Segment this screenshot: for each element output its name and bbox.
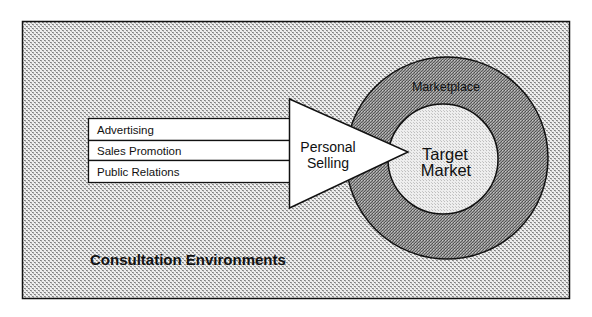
consultation-environments-label: Consultation Environments [90,251,286,268]
arrow-label-line-1: Personal [300,139,355,155]
arrow-label-line-2: Selling [307,155,349,171]
consultation-diagram: Advertising Sales Promotion Public Relat… [0,0,592,317]
target-market-label-line-2: Market [421,161,472,179]
channel-label-public-relations: Public Relations [97,166,180,178]
channel-label-advertising: Advertising [97,124,154,136]
channel-label-sales-promotion: Sales Promotion [97,145,181,157]
promotion-channel-bars: Advertising Sales Promotion Public Relat… [89,119,291,183]
marketplace-label: Marketplace [412,80,480,94]
